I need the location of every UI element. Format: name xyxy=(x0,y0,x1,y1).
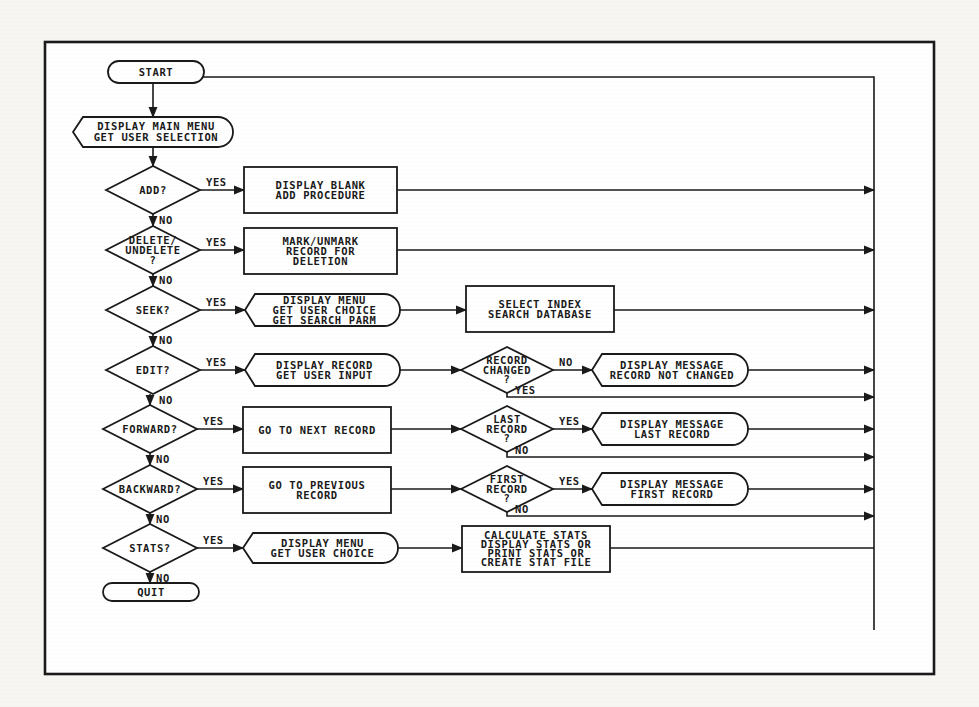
process-stats-menu: DISPLAY MENUGET USER CHOICE xyxy=(243,533,398,563)
node-label: SEARCH DATABASE xyxy=(488,308,592,320)
node-label: CREATE STAT FILE xyxy=(481,556,592,568)
process-display-blank: DISPLAY BLANKADD PROCEDURE xyxy=(244,167,397,213)
process-prev-record: GO TO PREVIOUSRECORD xyxy=(243,467,391,513)
process-display-record: DISPLAY RECORDGET USER INPUT xyxy=(245,354,400,386)
node-label: ADD PROCEDURE xyxy=(276,189,366,201)
node-label: GET USER INPUT xyxy=(276,369,373,381)
branch-label: NO xyxy=(559,356,573,368)
yes-label: YES xyxy=(206,296,227,308)
branch-label: NO xyxy=(515,444,529,456)
message-msg-first: DISPLAY MESSAGEFIRST RECORD xyxy=(592,473,748,505)
node-label: BACKWARD? xyxy=(119,483,181,495)
node-label: FIRST RECORD xyxy=(630,488,713,500)
terminal-start: START xyxy=(108,61,204,83)
node-label: ? xyxy=(150,254,157,266)
branch-label: YES xyxy=(515,384,536,396)
yes-label: YES xyxy=(203,415,224,427)
branch-label: NO xyxy=(515,503,529,515)
node-label: ? xyxy=(504,492,511,504)
terminal-quit: QUIT xyxy=(103,583,199,601)
yes-label: YES xyxy=(203,534,224,546)
node-label: STATS? xyxy=(129,542,171,554)
no-label: NO xyxy=(159,394,173,406)
node-label: EDIT? xyxy=(136,364,171,376)
yes-label: YES xyxy=(206,176,227,188)
yes-label: YES xyxy=(206,236,227,248)
node-label: START xyxy=(139,66,174,78)
process-calc-stats: CALCULATE STATSDISPLAY STATS ORPRINT STA… xyxy=(462,526,610,572)
node-label: GET SEARCH PARM xyxy=(273,314,377,326)
flowchart-canvas: STARTQUITDISPLAY MAIN MENUGET USER SELEC… xyxy=(0,0,979,707)
yes-label: YES xyxy=(206,356,227,368)
no-label: NO xyxy=(159,334,173,346)
process-mark-unmark: MARK/UNMARKRECORD FORDELETION xyxy=(244,228,397,274)
node-label: ? xyxy=(504,432,511,444)
node-label: FORWARD? xyxy=(122,423,177,435)
process-select-index: SELECT INDEXSEARCH DATABASE xyxy=(466,286,614,332)
branch-label: YES xyxy=(559,475,580,487)
message-msg-not-changed: DISPLAY MESSAGERECORD NOT CHANGED xyxy=(592,354,748,386)
no-label: NO xyxy=(156,513,170,525)
process-seek-menu: DISPLAY MENUGET USER CHOICEGET SEARCH PA… xyxy=(245,294,400,327)
flowchart-figure: STARTQUITDISPLAY MAIN MENUGET USER SELEC… xyxy=(0,0,979,707)
no-label: NO xyxy=(156,453,170,465)
node-label: LAST RECORD xyxy=(634,428,710,440)
node-label: ADD? xyxy=(139,184,167,196)
message-msg-last: DISPLAY MESSAGELAST RECORD xyxy=(592,413,748,445)
node-label: RECORD xyxy=(296,489,338,501)
node-label: SEEK? xyxy=(136,304,171,316)
node-label: GET USER CHOICE xyxy=(271,547,375,559)
display-main-menu: DISPLAY MAIN MENUGET USER SELECTION xyxy=(73,117,233,147)
no-label: NO xyxy=(159,214,173,226)
no-label: NO xyxy=(159,274,173,286)
node-label: QUIT xyxy=(137,586,165,598)
no-label: NO xyxy=(156,572,170,584)
node-label: RECORD NOT CHANGED xyxy=(610,369,735,381)
node-label: DELETION xyxy=(293,255,348,267)
node-label: GO TO NEXT RECORD xyxy=(258,424,376,436)
process-next-record: GO TO NEXT RECORD xyxy=(243,407,391,453)
branch-label: YES xyxy=(559,415,580,427)
node-label: GET USER SELECTION xyxy=(94,131,219,143)
node-label: ? xyxy=(504,373,511,385)
yes-label: YES xyxy=(203,475,224,487)
